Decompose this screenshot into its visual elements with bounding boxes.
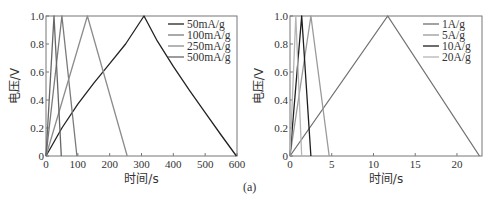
y-tick-label: 0.8 xyxy=(30,38,44,50)
x-tick-label: 500 xyxy=(197,158,214,170)
x-tick-label: 5 xyxy=(329,158,335,170)
x-tick-label: 200 xyxy=(101,158,118,170)
x-axis-title: 时间/s xyxy=(124,172,158,186)
y-tick-label: 0.6 xyxy=(30,66,44,78)
x-tick-label: 100 xyxy=(70,158,87,170)
x-tick-label: 600 xyxy=(229,158,246,170)
x-tick-label: 10 xyxy=(368,158,380,170)
y-axis-title: 电压/V xyxy=(252,67,266,104)
y-tick-label: 1.0 xyxy=(274,10,288,22)
x-tick-label: 400 xyxy=(165,158,182,170)
x-tick-label: 300 xyxy=(133,158,150,170)
legend-label: 20A/g xyxy=(442,51,471,64)
y-axis-title: 电压/V xyxy=(8,67,22,104)
legend-label: 500mA/g xyxy=(187,51,231,64)
y-tick-label: 0 xyxy=(283,150,289,162)
y-tick-label: 0.2 xyxy=(30,122,44,134)
y-tick-label: 1.0 xyxy=(30,10,44,22)
x-tick-label: 15 xyxy=(410,158,422,170)
left-chart: 010020030040050060000.20.40.60.81.0时间/s电… xyxy=(8,10,246,186)
figure-caption: (a) xyxy=(243,180,256,195)
y-tick-label: 0.2 xyxy=(274,122,288,134)
y-tick-label: 0.4 xyxy=(274,94,288,106)
x-tick-label: 0 xyxy=(287,158,293,170)
y-tick-label: 0.8 xyxy=(274,38,288,50)
x-axis-title: 时间/s xyxy=(369,172,403,186)
y-tick-label: 0 xyxy=(39,150,45,162)
x-tick-label: 0 xyxy=(43,158,49,170)
charge-discharge-figure: 010020030040050060000.20.40.60.81.0时间/s电… xyxy=(0,0,493,206)
y-tick-label: 0.4 xyxy=(30,94,44,106)
y-tick-label: 0.6 xyxy=(274,66,288,78)
right-chart: 0510152000.20.40.60.81.0时间/s电压/V1A/g5A/g… xyxy=(252,10,482,186)
x-tick-label: 20 xyxy=(451,158,463,170)
